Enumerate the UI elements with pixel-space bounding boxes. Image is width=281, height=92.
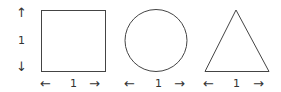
down-arrow-icon: ↓	[16, 60, 27, 74]
square-shape	[42, 11, 106, 72]
triangle-width-label: 1	[233, 78, 240, 90]
left-arrow-icon: ←	[203, 77, 214, 91]
triangle-shape	[205, 10, 269, 72]
circle-width-label: 1	[155, 78, 162, 90]
square-width-label: 1	[70, 78, 77, 90]
left-arrow-icon: ←	[124, 77, 135, 91]
up-arrow-icon: ↑	[16, 6, 27, 20]
right-arrow-icon: →	[253, 77, 264, 91]
right-arrow-icon: →	[89, 77, 100, 91]
circle-shape	[125, 10, 187, 72]
left-arrow-icon: ←	[40, 77, 51, 91]
right-arrow-icon: →	[174, 77, 185, 91]
square-height-label: 1	[18, 35, 25, 47]
